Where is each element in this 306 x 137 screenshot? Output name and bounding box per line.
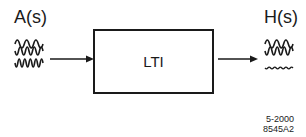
input-wave-low-icon [15,38,43,46]
output-label: H(s) [264,8,298,26]
figure-code: 5-2000 8545A2 [250,114,294,134]
input-label: A(s) [14,8,47,26]
output-wave-low-icon [265,38,293,46]
input-wave-high-icon [15,62,43,70]
input-wave-medium-icon [15,50,43,58]
figure-code-line2: 8545A2 [250,124,294,134]
input-arrow-icon [50,55,94,63]
lti-block-label: LTI [143,53,164,70]
output-wave-high-attenuated-icon [265,66,293,70]
output-arrow-icon [218,55,258,63]
output-wave-medium-icon [265,50,293,58]
figure-code-line1: 5-2000 [250,114,294,124]
lti-block: LTI [93,29,214,94]
